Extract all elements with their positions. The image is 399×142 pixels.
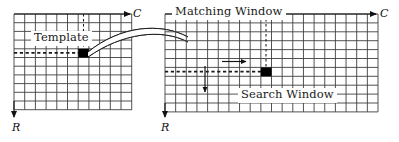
matching-window-cell-marker	[261, 67, 272, 76]
template-column-axis-label: C	[133, 8, 141, 19]
search-window-label: Search Window	[238, 88, 337, 103]
template-label: Template	[31, 31, 92, 46]
diagram-canvas	[0, 0, 399, 142]
figure-background	[0, 0, 399, 142]
matching-window-label: Matching Window	[172, 5, 286, 20]
search-column-axis-label: C	[380, 8, 388, 19]
template-row-axis-label: R	[12, 122, 20, 133]
template-cell-marker	[78, 49, 89, 58]
template-matching-figure: Template Matching Window Search Window C…	[0, 0, 399, 142]
search-row-axis-label: R	[161, 122, 169, 133]
